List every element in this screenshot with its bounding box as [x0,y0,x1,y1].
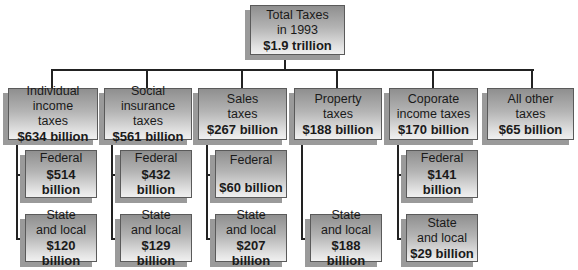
child-label-line1: Federal [421,151,463,166]
child-label-line1: Federal [40,151,82,166]
category-label-line1: All other [508,92,554,107]
cat1-child-tick-state [111,238,120,240]
cat4-drop-line [432,69,434,88]
child-label-line2: and local [417,231,467,246]
category-node-all-other: All other taxes $65 billion [487,88,574,140]
child-value: $120 billion [26,238,96,268]
category-label-line1: Individual income [9,84,97,114]
child-value: $188 billion [311,238,381,268]
cat4-child-tick-state [397,238,406,240]
category-label-line2: taxes [516,107,546,122]
level1-bar-line [51,69,534,71]
child-value: $432 billion [121,167,191,197]
child-value: $207 billion [216,238,286,268]
category-label-line1: Property [314,92,361,107]
child-label-line2: and local [321,223,371,238]
category-value: $561 billion [113,129,184,144]
cat0-child-tick-federal [16,174,25,176]
category-value: $267 billion [207,122,278,137]
child-value: $141 billion [407,167,477,197]
child-label-line1: State [46,208,75,223]
child-label-line1: State [427,216,456,231]
cat5-drop-line [531,69,533,88]
child-node-individual-federal: Federal $514 billion [25,150,97,198]
child-label-line1: State [141,208,170,223]
category-node-individual-income: Individual income taxes $634 billion [8,88,98,140]
cat2-child-tick-state [206,238,215,240]
child-value: $29 billion [410,246,474,261]
child-value: $514 billion [26,167,96,197]
child-label-line1: State [331,208,360,223]
child-node-social-state-local: State and local $129 billion [120,214,192,262]
category-node-social-insurance: Social insurance taxes $561 billion [104,88,192,140]
child-value: $60 billion [219,180,283,195]
root-label-line2: in 1993 [277,23,318,38]
cat2-child-tick-federal [206,174,215,176]
child-node-sales-federal: Federal $60 billion [215,150,287,198]
child-label-line1: Federal [135,151,177,166]
child-label-line2: and local [226,223,276,238]
child-label-line2: and local [131,223,181,238]
cat1-child-stem [111,140,113,239]
root-label-line1: Total Taxes [266,8,328,23]
category-label-line2: taxes [38,114,68,129]
category-value: $634 billion [18,129,89,144]
category-label-line2: taxes [228,107,258,122]
category-label-line1: Sales [227,92,258,107]
root-node-total-taxes: Total Taxes in 1993 $1.9 trillion [250,5,345,55]
cat3-drop-line [336,69,338,88]
category-label-line2: taxes [133,114,163,129]
cat1-child-tick-federal [111,174,120,176]
child-node-corporate-state-local: State and local $29 billion [406,214,478,262]
category-label-line1: Social insurance [105,84,191,114]
child-label-line2: and local [36,223,86,238]
child-node-corporate-federal: Federal $141 billion [406,150,478,198]
category-value: $65 billion [499,122,563,137]
cat0-child-tick-state [16,238,25,240]
category-label-line2: income taxes [397,107,471,122]
cat3-child-tick-state [301,238,310,240]
cat4-child-tick-federal [397,174,406,176]
category-value: $188 billion [303,122,374,137]
child-value: $129 billion [121,238,191,268]
root-value: $1.9 trillion [263,38,332,53]
cat2-child-stem [206,140,208,239]
category-label-line2: taxes [323,107,353,122]
child-node-social-federal: Federal $432 billion [120,150,192,198]
cat0-child-stem [16,140,18,239]
category-node-corporate-income: Coporate income taxes $170 billion [389,88,478,140]
category-value: $170 billion [398,122,469,137]
category-label-line1: Coporate [408,92,459,107]
child-label-line1: State [236,208,265,223]
child-node-individual-state-local: State and local $120 billion [25,214,97,262]
category-node-sales: Sales taxes $267 billion [198,88,287,140]
category-node-property: Property taxes $188 billion [294,88,382,140]
child-node-sales-state-local: State and local $207 billion [215,214,287,262]
cat3-child-stem [301,140,303,239]
child-node-property-state-local: State and local $188 billion [310,214,382,262]
cat4-child-stem [397,140,399,239]
cat2-drop-line [241,69,243,88]
child-label-line1: Federal [230,153,272,168]
